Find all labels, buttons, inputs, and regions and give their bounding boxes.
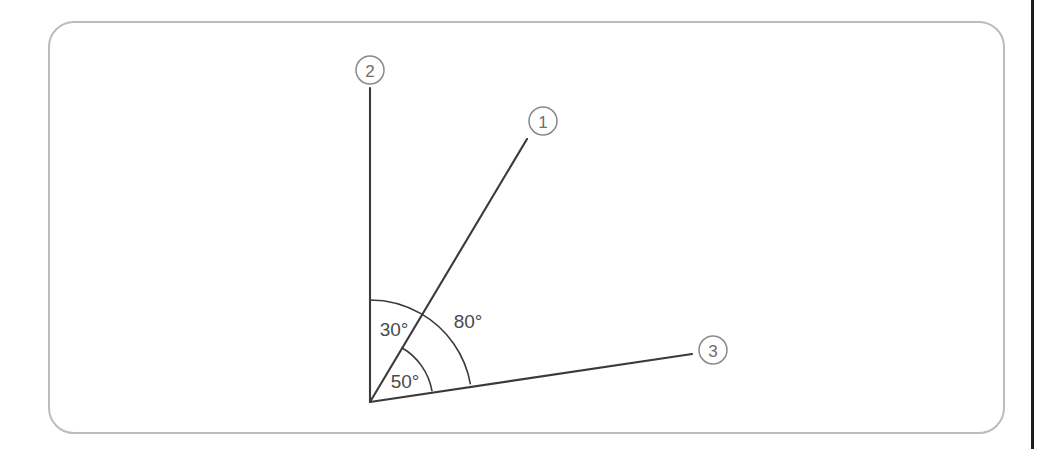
ray-1-callout: 1 (529, 107, 557, 135)
ray-1-line (370, 139, 527, 402)
angle-30-label: 30° (380, 319, 409, 340)
ray-2-callout-label: 2 (365, 62, 374, 81)
arc-30-path (370, 300, 421, 314)
ray-3-callout-label: 3 (708, 342, 717, 361)
ray-2-callout: 2 (356, 56, 384, 84)
angle-diagram: 30° 80° 50° 1 2 3 (0, 0, 1049, 449)
angle-50-label: 50° (391, 371, 420, 392)
ray-3-callout: 3 (699, 336, 727, 364)
ray-1-callout-label: 1 (538, 113, 547, 132)
angle-80-label: 80° (454, 311, 483, 332)
page-root: 30° 80° 50° 1 2 3 (0, 0, 1049, 449)
